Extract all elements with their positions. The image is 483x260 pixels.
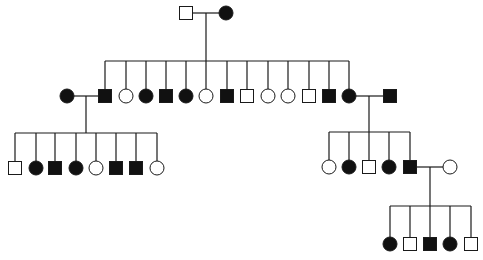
affected-male-square-icon [49,162,62,175]
unaffected-male-square-icon [9,162,22,175]
affected-male-square-icon [384,90,397,103]
affected-female-circle-icon [69,161,83,175]
unaffected-male-square-icon [404,238,417,251]
affected-female-circle-icon [179,89,193,103]
affected-male-square-icon [404,161,417,174]
affected-female-circle-icon [443,237,457,251]
affected-female-circle-icon [29,161,43,175]
unaffected-female-circle-icon [261,89,275,103]
unaffected-male-square-icon [180,7,193,20]
affected-female-circle-icon [60,89,74,103]
affected-male-square-icon [221,90,234,103]
affected-male-square-icon [424,238,437,251]
unaffected-female-circle-icon [150,161,164,175]
unaffected-male-square-icon [241,90,254,103]
affected-female-circle-icon [219,6,233,20]
affected-female-circle-icon [342,160,356,174]
affected-male-square-icon [99,90,112,103]
pedigree-chart [0,0,483,260]
unaffected-male-square-icon [363,161,376,174]
unaffected-female-circle-icon [119,89,133,103]
affected-female-circle-icon [383,237,397,251]
unaffected-female-circle-icon [89,161,103,175]
unaffected-male-square-icon [465,238,478,251]
affected-female-circle-icon [382,160,396,174]
affected-male-square-icon [323,90,336,103]
affected-male-square-icon [160,90,173,103]
affected-male-square-icon [110,162,123,175]
unaffected-female-circle-icon [199,89,213,103]
pedigree-lines [15,13,471,238]
affected-male-square-icon [130,162,143,175]
pedigree-symbols [9,6,478,251]
unaffected-female-circle-icon [281,89,295,103]
unaffected-male-square-icon [303,90,316,103]
affected-female-circle-icon [342,89,356,103]
unaffected-female-circle-icon [443,160,457,174]
unaffected-female-circle-icon [322,160,336,174]
affected-female-circle-icon [139,89,153,103]
